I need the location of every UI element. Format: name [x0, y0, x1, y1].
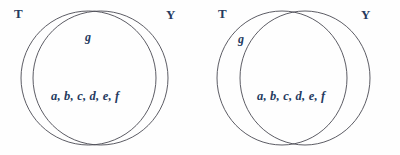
right-venn-circles — [200, 0, 400, 155]
left-venn-region-label-g: g — [85, 31, 91, 43]
left-venn-diagram: T Y g a, b, c, d, e, f — [0, 0, 200, 155]
right-venn-region-label-elements: a, b, c, d, e, f — [257, 90, 325, 103]
left-venn-label-set-y: Y — [166, 8, 176, 21]
right-venn-label-set-t: T — [218, 7, 227, 20]
left-circle-set-y — [33, 11, 168, 145]
left-venn-region-label-elements: a, b, c, d, e, f — [51, 90, 119, 103]
right-circle-set-t — [217, 11, 347, 145]
right-venn-label-set-y: Y — [361, 8, 371, 21]
right-venn-region-label-g: g — [238, 33, 244, 45]
venn-diagram-figure: T Y g a, b, c, d, e, f T Y g a, b, c, d,… — [0, 0, 400, 155]
left-venn-circles — [0, 0, 200, 155]
right-circle-set-y — [240, 11, 370, 145]
right-venn-diagram: T Y g a, b, c, d, e, f — [200, 0, 400, 155]
left-venn-label-set-t: T — [14, 7, 23, 20]
